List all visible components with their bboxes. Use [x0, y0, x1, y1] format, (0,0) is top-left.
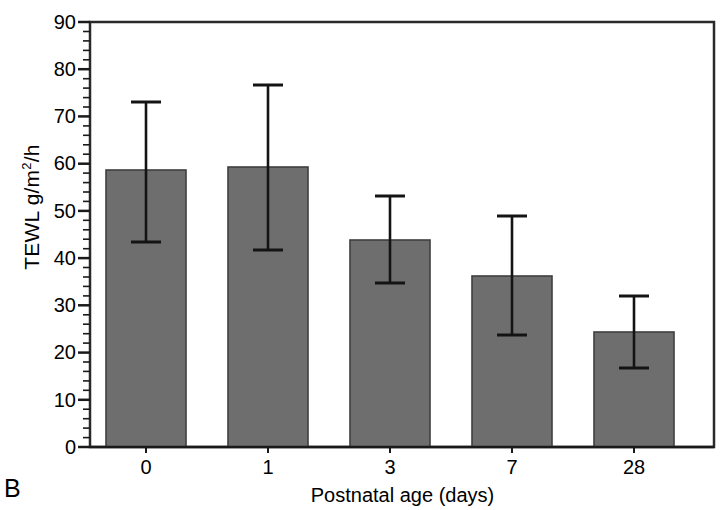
panel-label: B: [4, 474, 21, 503]
plot-area: [0, 0, 725, 510]
y-axis-major-ticks: [78, 22, 90, 447]
x-tick-label-28: 28: [594, 456, 674, 479]
figure-panel-b: TEWL g/m2/h 0 10 20 30 40 50 60 70 80 90: [0, 0, 725, 510]
x-tick-label-1: 1: [228, 456, 308, 479]
x-axis-title: Postnatal age (days): [90, 484, 715, 507]
x-tick-label-0: 0: [106, 456, 186, 479]
x-tick-label-3: 3: [350, 456, 430, 479]
x-tick-label-7: 7: [472, 456, 552, 479]
